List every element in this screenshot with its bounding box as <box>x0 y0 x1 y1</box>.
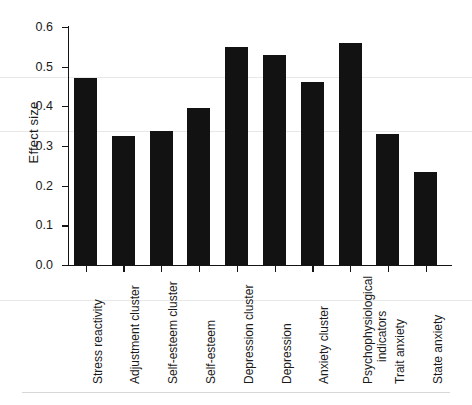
y-axis-tick: 0.6 <box>62 27 68 28</box>
y-axis-tick-label: 0.5 <box>36 58 53 76</box>
bar <box>74 78 97 265</box>
bar <box>339 43 362 265</box>
x-axis-category-label: Anxiety cluster <box>317 269 333 384</box>
bar <box>414 172 437 265</box>
y-axis-tick-label: 0.3 <box>36 137 53 155</box>
page-rule <box>22 392 450 393</box>
bar <box>150 131 173 265</box>
x-axis-category-label: Self-esteem cluster <box>166 269 182 384</box>
bar-chart-figure: Effect size 0.00.10.20.30.40.50.6 Stress… <box>0 0 472 405</box>
x-axis-line <box>68 265 452 266</box>
x-axis-category-label: Adjustment cluster <box>128 269 144 384</box>
bar <box>112 136 135 265</box>
bar <box>225 47 248 265</box>
x-axis-category-label: Self-esteem <box>204 269 220 384</box>
x-axis-category-label: State anxiety <box>431 269 447 384</box>
bar <box>187 108 210 265</box>
y-axis-tick: 0.1 <box>62 225 68 226</box>
y-axis-tick: 0.0 <box>62 265 68 266</box>
y-axis-line <box>68 26 69 266</box>
bar <box>376 134 399 265</box>
bar <box>263 55 286 265</box>
y-axis-tick-label: 0.1 <box>36 216 53 234</box>
y-axis-tick: 0.4 <box>62 106 68 107</box>
bar <box>301 82 324 265</box>
x-axis-category-labels: Stress reactivityAdjustment clusterSelf-… <box>68 272 452 387</box>
y-axis-tick-label: 0.6 <box>36 18 53 36</box>
plot-area: 0.00.10.20.30.40.50.6 <box>68 20 452 266</box>
x-axis-category-label-line: indicators <box>375 269 389 384</box>
x-axis-category-label-line: Psychophysiological <box>361 276 375 384</box>
y-axis-tick: 0.3 <box>62 146 68 147</box>
y-axis-tick: 0.2 <box>62 186 68 187</box>
y-axis-tick-label: 0.0 <box>36 256 53 274</box>
x-axis-category-label: Trait anxiety <box>393 269 409 384</box>
y-axis-tick-label: 0.2 <box>36 177 53 195</box>
y-axis-tick: 0.5 <box>62 67 68 68</box>
x-axis-category-label: Depression cluster <box>242 269 258 384</box>
x-axis-category-label: Stress reactivity <box>91 269 107 384</box>
y-axis-tick-label: 0.4 <box>36 97 53 115</box>
x-axis-category-label: Depression <box>280 269 296 384</box>
x-axis-category-label: Psychophysiologicalindicators <box>361 269 393 384</box>
